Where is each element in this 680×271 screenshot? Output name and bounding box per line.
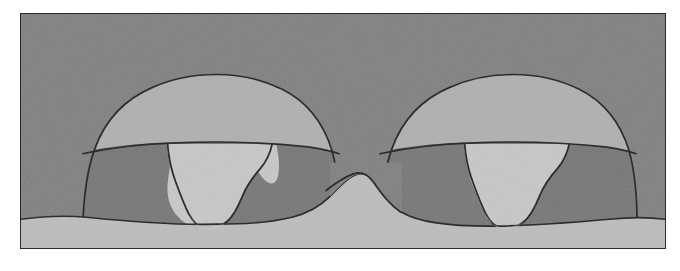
figure-root (0, 0, 680, 271)
grain-overlay-fine (21, 14, 665, 248)
micrograph-frame (20, 13, 666, 249)
cross-section-diagram (21, 14, 665, 248)
